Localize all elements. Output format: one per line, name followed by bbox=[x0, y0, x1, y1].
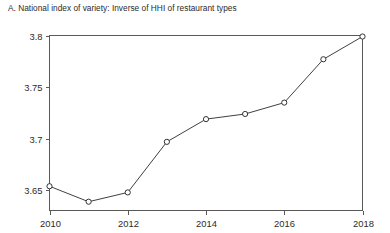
data-point-marker bbox=[125, 190, 130, 195]
data-point-markers bbox=[47, 34, 365, 204]
data-point-marker bbox=[360, 34, 365, 39]
line-chart-plot: 3.653.73.753.8 20102012201420162018 bbox=[0, 0, 390, 233]
y-axis-tick-label: 3.65 bbox=[24, 185, 42, 196]
data-point-marker bbox=[321, 57, 326, 62]
data-point-marker bbox=[86, 199, 91, 204]
data-point-marker bbox=[47, 184, 52, 189]
y-axis-ticks: 3.653.73.753.8 bbox=[24, 31, 49, 196]
chart-figure: A. National index of variety: Inverse of… bbox=[0, 0, 390, 233]
x-axis-tick-label: 2018 bbox=[353, 218, 374, 229]
y-axis-tick-label: 3.7 bbox=[29, 134, 42, 145]
x-axis-ticks: 20102012201420162018 bbox=[40, 211, 374, 229]
x-axis-tick-label: 2014 bbox=[196, 218, 217, 229]
x-axis-tick-label: 2012 bbox=[118, 218, 139, 229]
data-point-marker bbox=[164, 139, 169, 144]
x-axis-tick-label: 2016 bbox=[274, 218, 295, 229]
y-axis-tick-label: 3.75 bbox=[24, 82, 42, 93]
plot-frame bbox=[50, 36, 363, 211]
data-point-marker bbox=[243, 111, 248, 116]
y-axis-tick-label: 3.8 bbox=[29, 31, 42, 42]
data-point-marker bbox=[203, 117, 208, 122]
x-axis-tick-label: 2010 bbox=[40, 218, 61, 229]
data-point-marker bbox=[282, 100, 287, 105]
